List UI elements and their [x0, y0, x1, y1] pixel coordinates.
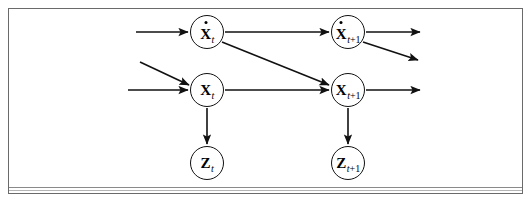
- x-t1-node: Xt+1: [331, 73, 365, 107]
- rule-line-bottom: [9, 190, 522, 191]
- x-t-node-label: Xt: [200, 82, 214, 98]
- x-t-node: Xt: [190, 73, 224, 107]
- x-dot-t-node-label: Xt: [200, 26, 214, 42]
- z-t-node-label: Zt: [201, 155, 214, 171]
- figure-frame: [8, 8, 523, 194]
- bottom-double-rule: [9, 187, 522, 191]
- z-t-node: Zt: [190, 146, 224, 180]
- derivative-dot-icon: [204, 21, 207, 24]
- x-dot-t1-node: Xt+1: [331, 15, 365, 49]
- figure-page: XtXt+1XtXt+1ZtZt+1: [0, 0, 531, 204]
- z-t1-node: Zt+1: [331, 146, 365, 180]
- x-t1-node-label: Xt+1: [336, 82, 360, 98]
- rule-line-top: [9, 187, 522, 188]
- z-t1-node-label: Zt+1: [336, 155, 359, 171]
- derivative-dot-icon: [340, 21, 343, 24]
- x-dot-t1-node-label: Xt+1: [336, 26, 360, 42]
- x-dot-t-node: Xt: [190, 15, 224, 49]
